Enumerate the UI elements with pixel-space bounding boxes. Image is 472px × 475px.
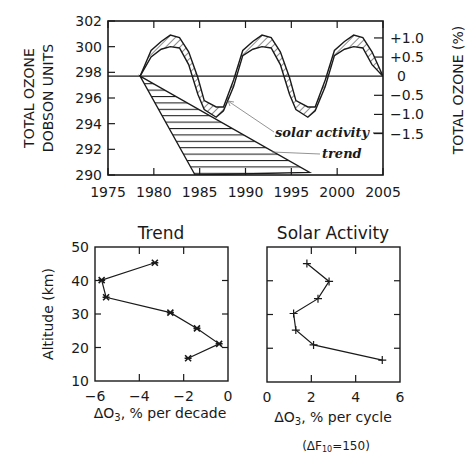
y-right-tick-label: −0.5 (390, 87, 424, 103)
y-right-tick-label: 0 (397, 68, 406, 84)
plus-marker-icon (290, 309, 298, 317)
top-ylabel-right: TOTAL OZONE (%) (450, 26, 466, 156)
trend-xlabel: ΔO3, % per decade (94, 405, 227, 423)
x-tick-label: −4 (129, 388, 150, 404)
annotation-solar-activity: solar activity (275, 125, 371, 140)
total-ozone-time-series-chart: 1975198019851990199520002005290292294296… (21, 13, 466, 200)
x-tick-label: 4 (351, 389, 360, 405)
x-tick-label: 0 (263, 389, 272, 405)
trend-altitude-profile-chart: Trend −6−4−201020304050 Altitude (km) ΔO… (40, 223, 232, 423)
annotation-trend: trend (322, 146, 362, 161)
y-tick-label: 302 (75, 13, 102, 29)
solar-axes: 0246 (263, 247, 405, 405)
solar-pointer-line (228, 101, 274, 132)
y-tick-label: 30 (71, 306, 89, 322)
plus-marker-icon (378, 356, 386, 364)
y-right-tick-label: −1.0 (390, 106, 424, 122)
asterisk-marker-icon (167, 310, 174, 316)
y-tick-label: 40 (71, 273, 89, 289)
trend-plot-area (98, 260, 222, 361)
profile-line (102, 263, 219, 358)
y-tick-label: 20 (71, 340, 89, 356)
x-tick-label: 2005 (365, 184, 401, 200)
x-tick-label: 1990 (228, 184, 264, 200)
y-tick-label: 294 (75, 116, 102, 132)
asterisk-marker-icon (185, 355, 192, 361)
solar-plot-area (290, 260, 387, 365)
solar-activity-altitude-profile-chart: Solar Activity 0246 ΔO3, % per cycle (ΔF… (263, 223, 405, 454)
trend-plot-frame (95, 247, 228, 381)
x-tick-label: 2 (307, 389, 316, 405)
y-right-tick-label: −1.5 (390, 126, 424, 142)
x-tick-label: 0 (224, 388, 233, 404)
solar-flux-note: (ΔF10=150) (302, 439, 370, 454)
x-tick-label: 6 (396, 389, 405, 405)
altitude-axis-label: Altitude (km) (40, 268, 56, 360)
solar-plot-frame (267, 247, 400, 382)
y-tick-label: 50 (71, 239, 89, 255)
x-tick-label: 1980 (136, 184, 172, 200)
x-tick-label: 2000 (319, 184, 355, 200)
plus-marker-icon (314, 295, 322, 303)
x-tick-label: 1985 (182, 184, 218, 200)
y-right-tick-label: +0.5 (390, 49, 424, 65)
x-tick-label: 1995 (274, 184, 310, 200)
top-ylabel-line2: DOBSON UNITS (40, 44, 56, 152)
x-tick-label: −2 (173, 388, 194, 404)
y-tick-label: 298 (75, 64, 102, 80)
y-tick-label: 292 (75, 141, 102, 157)
y-tick-label: 290 (75, 167, 102, 183)
trend-pointer-line (272, 152, 320, 154)
top-ylabel-line1: TOTAL OZONE (21, 48, 37, 149)
x-tick-label: 1975 (90, 184, 126, 200)
solar-panel-title: Solar Activity (277, 223, 389, 243)
ozone-figure: 1975198019851990199520002005290292294296… (0, 0, 472, 475)
profile-line (294, 264, 383, 361)
solar-xlabel: ΔO3, % per cycle (274, 409, 392, 427)
y-tick-label: 296 (75, 90, 102, 106)
y-tick-label: 300 (75, 39, 102, 55)
y-tick-label: 10 (71, 373, 89, 389)
asterisk-marker-icon (151, 260, 158, 266)
y-right-tick-label: +1.0 (390, 30, 424, 46)
asterisk-marker-icon (193, 325, 200, 331)
x-tick-label: −6 (85, 388, 106, 404)
trend-panel-title: Trend (137, 223, 185, 243)
asterisk-marker-icon (216, 341, 223, 347)
